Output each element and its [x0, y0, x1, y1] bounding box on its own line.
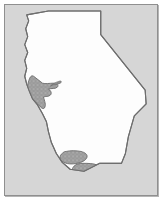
map-plate-frame: [4, 4, 158, 196]
california-map-canvas: [5, 5, 157, 195]
map-title: California: [0, 0, 1, 1]
map-figure: California: [0, 0, 162, 201]
